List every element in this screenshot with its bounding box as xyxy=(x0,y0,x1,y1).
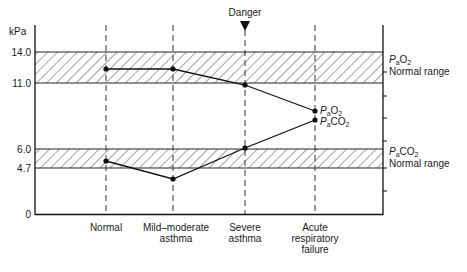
paco2-end-label: PaCO2 xyxy=(320,116,350,128)
y-tick-6: 6.0 xyxy=(17,144,31,155)
paco2-normal-range-title: PaCO2 xyxy=(389,146,419,158)
danger-label: Danger xyxy=(229,7,262,18)
y-tick-4-7: 4.7 xyxy=(17,163,31,174)
paco2-normal-range-band xyxy=(35,149,383,168)
pao2-normal-range-title: PaO2 xyxy=(389,54,411,66)
y-tick-14: 14.0 xyxy=(12,47,32,58)
pao2-normal-range-band xyxy=(35,52,383,83)
x-label-acute-line1: Acute xyxy=(302,222,328,233)
pao2-normal-range-label: Normal range xyxy=(389,66,450,77)
paco2-normal-range-label: Normal range xyxy=(389,158,450,169)
x-label-severe-line1: Severe xyxy=(229,222,261,233)
asthma-blood-gas-chart: kPa 14.0 11.0 6.0 4.7 0 Danger PaO2 PaCO… xyxy=(0,0,467,272)
x-label-normal: Normal xyxy=(90,222,122,233)
x-label-mild-moderate-line1: Mild–moderate xyxy=(143,222,210,233)
y-tick-0: 0 xyxy=(25,209,31,220)
x-label-severe-line2: asthma xyxy=(229,233,262,244)
y-axis-unit-label: kPa xyxy=(9,26,27,37)
danger-triangle-icon xyxy=(240,21,250,31)
x-label-acute-line2: respiratory xyxy=(291,233,338,244)
x-label-acute-line3: failure xyxy=(301,244,329,255)
x-label-mild-moderate-line2: asthma xyxy=(160,233,193,244)
y-tick-11: 11.0 xyxy=(12,78,31,89)
